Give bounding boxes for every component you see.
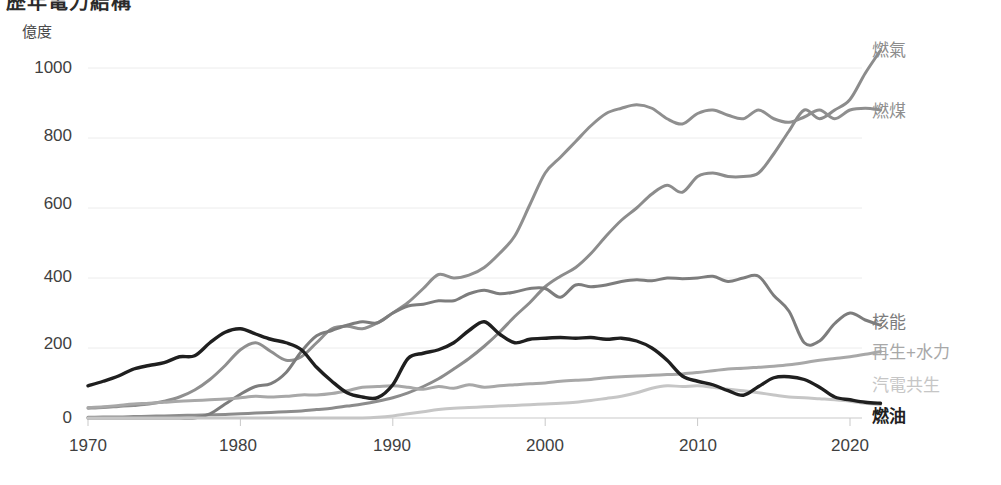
x-axis-tick-label: 2020 — [805, 436, 895, 456]
x-axis-tick-label: 1980 — [193, 436, 283, 456]
x-axis-tick-label: 1970 — [43, 436, 133, 456]
series-line-燃油 — [88, 322, 880, 404]
y-axis-tick-label: 0 — [0, 408, 72, 428]
y-axis-tick-label: 200 — [0, 334, 72, 354]
x-axis-tick-label: 1990 — [347, 436, 437, 456]
series-lines — [88, 51, 880, 419]
y-axis-tick-label: 600 — [0, 194, 72, 214]
y-axis-tick-label: 400 — [0, 267, 72, 287]
x-axis-tick-label: 2010 — [653, 436, 743, 456]
legend-label-汽電共生: 汽電共生 — [872, 377, 940, 394]
y-axis-tick-label: 1000 — [0, 58, 72, 78]
series-line-燃氣 — [88, 51, 880, 418]
series-line-再生+水力 — [88, 352, 880, 408]
x-axis-tick-label: 2000 — [500, 436, 590, 456]
y-axis-tick-label: 800 — [0, 126, 72, 146]
power-mix-line-chart: 歷年電力結構 億度 10008006004002000 197019801990… — [0, 0, 1001, 485]
legend-label-再生+水力: 再生+水力 — [872, 344, 950, 361]
series-line-燃煤 — [88, 105, 880, 408]
legend-label-燃煤: 燃煤 — [872, 103, 906, 120]
series-line-汽電共生 — [88, 386, 880, 418]
legend-label-燃油: 燃油 — [872, 408, 906, 425]
chart-plot-area — [0, 0, 1001, 485]
legend-label-核能: 核能 — [872, 314, 906, 331]
gridlines — [88, 68, 862, 426]
legend-label-燃氣: 燃氣 — [872, 42, 906, 59]
